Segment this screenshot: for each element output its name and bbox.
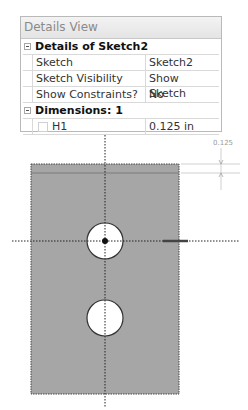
origin-point[interactable]: [102, 238, 108, 244]
sketch-canvas[interactable]: [0, 0, 248, 410]
dimension-label[interactable]: 0.125: [213, 139, 233, 147]
